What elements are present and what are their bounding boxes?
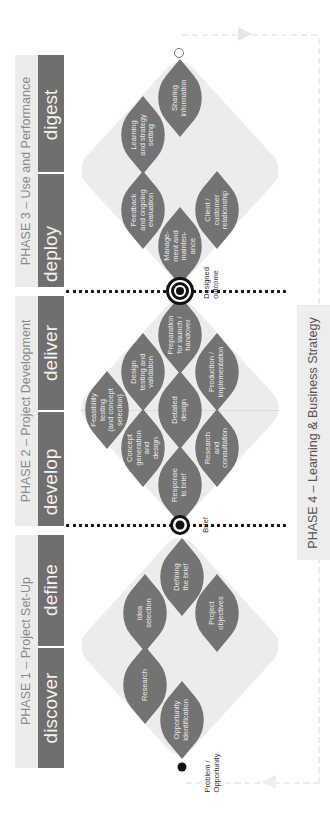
designed-outcome-dot [176, 287, 184, 295]
leaf-client-relationship-label: Client / customer relationship [204, 191, 230, 229]
stage-discover: discover [38, 648, 64, 768]
stage-digest-label: digest [40, 90, 62, 141]
phase3-title-strip: PHASE 3 – Use and Performance [15, 55, 38, 287]
leaf-defining-brief-label: Defining the brief [173, 563, 190, 591]
problem-start-dot-icon [178, 763, 187, 772]
leaf-idea-selection-label: Idea selection [136, 598, 153, 628]
stage-deliver: deliver [38, 296, 64, 410]
stage-deploy-label: deploy [40, 226, 62, 282]
leaf-response-to-brief-label: Response to brief [171, 468, 188, 502]
stage-develop: develop [38, 412, 64, 526]
leaf-feedback-evaluation-label: Feedback and ongoing evaluation [130, 189, 156, 230]
stage-define-label: define [40, 564, 62, 616]
brief-label: Brief [202, 517, 211, 532]
leaf-sharing-information-label: Sharing information [171, 79, 188, 116]
designed-outcome-label: Designed outcome [203, 267, 220, 299]
leaf-design-testing-label: Design testing and validation [130, 354, 156, 391]
phase4-title: PHASE 4 – Learning & Business Strategy [306, 317, 320, 548]
phase4-label-box: PHASE 4 – Learning & Business Strategy [297, 305, 330, 560]
end-open-circle-icon [174, 48, 184, 58]
brief-dot [176, 521, 185, 530]
leaf-detailed-design-label: Detailed design [171, 396, 188, 424]
leaf-research-consultation-label: Research and consultation [204, 428, 230, 468]
leaf-concept-generation-label: Concept generation and design [126, 430, 160, 465]
leaf-research-label: Research [141, 669, 150, 701]
phase2-title-strip: PHASE 2 – Project Development [15, 296, 38, 526]
feedback-loop-arrow-icon [238, 27, 252, 41]
leaf-preparation-launch-label: Preparation for launch / handover [167, 316, 193, 355]
leaf-opportunity-identification-label: Opportunity identification [173, 699, 190, 741]
feedback-loop-bottom-arrow-icon [262, 775, 276, 789]
leaf-feasibility-testing-label: Feasibility testing (and concept selecti… [90, 388, 124, 431]
stage-digest: digest [38, 55, 64, 172]
phase3-title: PHASE 3 – Use and Performance [19, 77, 33, 265]
stage-develop-label: develop [40, 449, 62, 516]
leaf-learning-strategy-label: Learning and strategy setting [130, 114, 156, 155]
stage-deploy: deploy [38, 174, 64, 287]
leaf-project-objectives-label: Project objectives [208, 596, 225, 629]
stage-discover-label: discover [40, 673, 62, 744]
phase2-title: PHASE 2 – Project Development [19, 320, 33, 503]
stage-deliver-label: deliver [40, 325, 62, 381]
phase1-title-strip: PHASE 1 – Project Set-Up [15, 535, 38, 768]
stage-define: define [38, 535, 64, 646]
leaf-production-implementation-label: Production / implementation [208, 347, 225, 398]
problem-opportunity-label: Problem / Opportunity [204, 754, 221, 793]
phase1-title: PHASE 1 – Project Set-Up [19, 577, 33, 725]
leaf-management-maintenance-label: Manage- ment and mainten- ance [163, 230, 197, 261]
